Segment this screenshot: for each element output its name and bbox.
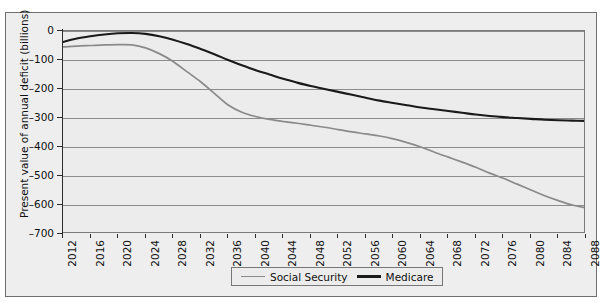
x-axis-tick-label: 2076 — [506, 240, 518, 267]
x-axis-tick-mark — [365, 234, 366, 238]
x-axis-tick-label: 2024 — [149, 240, 161, 267]
y-axis-tick-label: –100 — [10, 53, 54, 65]
x-axis-tick-marks — [62, 234, 585, 239]
x-axis-tick-mark — [530, 234, 531, 238]
x-axis-tick-mark — [282, 234, 283, 238]
x-axis-tick-label: 2032 — [204, 240, 216, 267]
legend-entry-social-security[interactable]: Social Security — [241, 271, 348, 283]
y-axis-tick-mark — [57, 204, 62, 205]
y-axis-tick-label: –200 — [10, 82, 54, 94]
x-axis-tick-mark — [255, 234, 256, 238]
x-axis-tick-mark — [200, 234, 201, 238]
x-axis-tick-label: 2072 — [479, 240, 491, 267]
x-axis-tick-mark — [310, 234, 311, 238]
x-axis-tick-mark — [475, 234, 476, 238]
x-axis-tick-label: 2040 — [259, 240, 271, 267]
y-axis-tick-label: –700 — [10, 227, 54, 239]
x-axis-tick-label: 2048 — [314, 240, 326, 267]
y-axis-tick-label: –600 — [10, 198, 54, 210]
x-axis-tick-label: 2020 — [121, 240, 133, 267]
x-axis-tick-label: 2084 — [561, 240, 573, 267]
y-axis-tick-label: –400 — [10, 140, 54, 152]
series-lines — [63, 31, 585, 233]
y-axis-tick-mark — [57, 30, 62, 31]
x-axis-tick-mark — [117, 234, 118, 238]
x-axis-tick-label: 2028 — [176, 240, 188, 267]
x-axis-tick-mark — [337, 234, 338, 238]
chart-figure: Present value of annual deficit (billion… — [0, 0, 607, 302]
x-axis-tick-label: 2036 — [231, 240, 243, 267]
x-axis-tick-label: 2056 — [369, 240, 381, 267]
series-line-social-security — [63, 45, 585, 208]
x-axis-tick-mark — [90, 234, 91, 238]
x-axis-tick-label: 2064 — [424, 240, 436, 267]
x-axis-tick-mark — [392, 234, 393, 238]
clipped-caption-text — [28, 0, 448, 6]
x-axis-tick-label: 2088 — [589, 240, 601, 267]
y-axis-tick-labels: 0–100–200–300–400–500–600–700 — [8, 0, 54, 302]
legend-label: Medicare — [386, 271, 434, 283]
x-axis-tick-mark — [227, 234, 228, 238]
x-axis-tick-mark — [172, 234, 173, 238]
plot-area — [62, 30, 585, 233]
y-axis-tick-mark — [57, 59, 62, 60]
x-axis-tick-mark — [557, 234, 558, 238]
chart-legend: Social SecurityMedicare — [231, 267, 443, 286]
y-axis-tick-label: –300 — [10, 111, 54, 123]
plot-wrapper — [62, 30, 585, 233]
x-axis-tick-label: 2044 — [286, 240, 298, 267]
x-axis-tick-mark — [62, 234, 63, 238]
x-axis-tick-label: 2060 — [396, 240, 408, 267]
y-axis-tick-label: 0 — [10, 24, 54, 36]
x-axis-tick-label: 2052 — [341, 240, 353, 267]
y-axis-tick-mark — [57, 146, 62, 147]
y-axis-tick-mark — [57, 117, 62, 118]
x-axis-tick-mark — [145, 234, 146, 238]
legend-entry-medicare[interactable]: Medicare — [357, 271, 434, 283]
x-axis-tick-label: 2080 — [534, 240, 546, 267]
x-axis-tick-mark — [447, 234, 448, 238]
y-axis-tick-mark — [57, 88, 62, 89]
x-axis-tick-mark — [420, 234, 421, 238]
x-axis-tick-label: 2068 — [451, 240, 463, 267]
legend-line-swatch — [241, 276, 265, 278]
legend-line-swatch — [357, 275, 381, 277]
x-axis-tick-label: 2016 — [94, 240, 106, 267]
x-axis-tick-label: 2012 — [66, 240, 78, 267]
x-axis-tick-mark — [502, 234, 503, 238]
y-axis-tick-label: –500 — [10, 169, 54, 181]
x-axis-tick-mark — [585, 234, 586, 238]
y-axis-tick-mark — [57, 175, 62, 176]
legend-label: Social Security — [270, 271, 348, 283]
y-axis-line — [62, 29, 63, 235]
